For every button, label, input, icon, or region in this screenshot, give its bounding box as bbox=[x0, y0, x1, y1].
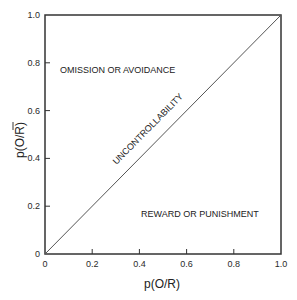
y-tick-label: 0.8 bbox=[27, 58, 40, 68]
y-tick-label: 0.2 bbox=[27, 201, 40, 211]
x-tick-label: 0.4 bbox=[133, 259, 146, 269]
y-tick-label: 0.6 bbox=[27, 106, 40, 116]
uncontrollability-label: UNCONTROLLABILITY bbox=[111, 91, 185, 166]
x-tick-label: 0 bbox=[42, 259, 47, 269]
x-tick-label: 0.2 bbox=[86, 259, 99, 269]
y-label-suffix: ) bbox=[13, 122, 27, 126]
y-tick-label: 1.0 bbox=[27, 10, 40, 20]
y-axis-label: p(O/R) bbox=[13, 122, 27, 158]
x-tick-label: 0.6 bbox=[180, 259, 193, 269]
x-axis-label: p(O/R) bbox=[144, 277, 180, 291]
x-axis-tick-labels: 0 0.2 0.4 0.6 0.8 1.0 bbox=[42, 259, 287, 269]
y-label-prefix: p(O/ bbox=[13, 134, 27, 158]
y-axis-tick-labels: 0 0.2 0.4 0.6 0.8 1.0 bbox=[27, 10, 40, 259]
x-tick-label: 0.8 bbox=[228, 259, 241, 269]
y-tick-label: 0 bbox=[35, 249, 40, 259]
contingency-chart: 0 0.2 0.4 0.6 0.8 1.0 0 0.2 0.4 0.6 0.8 … bbox=[0, 0, 297, 300]
omission-avoidance-label: OMISSION OR AVOIDANCE bbox=[60, 65, 175, 75]
svg-text:p(O/R): p(O/R) bbox=[13, 122, 27, 158]
x-tick-label: 1.0 bbox=[275, 259, 288, 269]
reward-punishment-label: REWARD OR PUNISHMENT bbox=[141, 209, 259, 219]
y-tick-label: 0.4 bbox=[27, 153, 40, 163]
y-label-r-bar: R bbox=[13, 126, 27, 135]
